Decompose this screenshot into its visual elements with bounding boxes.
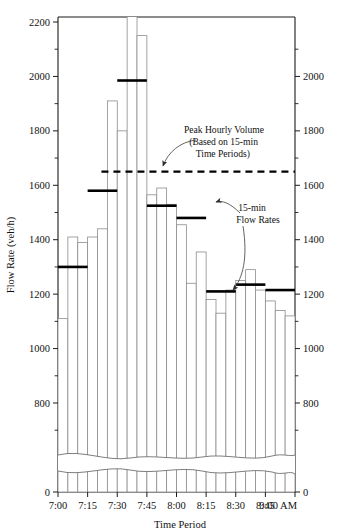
bar — [196, 252, 206, 492]
x-axis-tick-label: 7:15 — [78, 500, 97, 511]
bar — [167, 204, 177, 492]
x-axis-labels: 7:007:157:307:458:008:158:308:459:00 AM — [49, 500, 298, 511]
x-axis-tick-label: 8:30 — [226, 500, 245, 511]
bar — [137, 36, 147, 492]
annotation-15min-arrow-up — [216, 201, 240, 213]
y-axis-tick-label: 2200 — [29, 17, 50, 28]
bar — [147, 195, 157, 492]
bar — [117, 131, 127, 492]
annotation-peak-hourly-volume: Peak Hourly Volume (Based on 15-min Time… — [163, 124, 264, 166]
y-axis-tick-label: 1000 — [303, 343, 324, 354]
bar — [107, 101, 117, 492]
y-axis-title: Flow Rate (veh/h) — [5, 216, 17, 293]
annotation-peak-line-3: Time Periods) — [196, 148, 250, 160]
y-axis-left-labels: 08001000120014001600180020002200 — [29, 17, 50, 498]
x-axis-tick-label: 7:30 — [108, 500, 127, 511]
y-axis-tick-label: 800 — [303, 398, 319, 409]
y-axis-tick-label: 1000 — [29, 343, 50, 354]
x-axis-tick-label: 7:00 — [49, 500, 68, 511]
y-axis-tick-label: 0 — [303, 487, 308, 498]
y-axis-tick-label: 1600 — [303, 180, 324, 191]
y-axis-tick-label: 1600 — [29, 180, 50, 191]
bar — [127, 14, 137, 492]
x-axis-tick-label: 9:00 AM — [259, 500, 297, 511]
bar — [98, 229, 108, 492]
x-axis-title: Time Period — [154, 519, 207, 530]
bar — [157, 188, 167, 492]
x-axis-tick-label: 8:00 — [167, 500, 186, 511]
annotation-15min-line-1: 15-min — [238, 202, 266, 213]
y-axis-left-ticks — [53, 22, 58, 492]
y-axis-tick-label: 2000 — [29, 71, 50, 82]
y-axis-right-ticks — [295, 49, 300, 492]
y-axis-tick-label: 2000 — [303, 71, 324, 82]
x-axis-ticks — [58, 492, 295, 497]
y-axis-tick-label: 0 — [45, 487, 50, 498]
bar-series — [58, 14, 295, 492]
y-axis-tick-label: 800 — [34, 398, 50, 409]
y-axis-tick-label: 1800 — [29, 125, 50, 136]
chart-figure: 08001000120014001600180020002200 0800100… — [0, 0, 359, 532]
bar — [88, 237, 98, 492]
annotation-15min-line-2: Flow Rates — [236, 214, 280, 225]
y-axis-tick-label: 1200 — [29, 289, 50, 300]
bar — [177, 225, 187, 492]
y-axis-right-labels: 0800100012001400160018002000 — [303, 71, 324, 498]
y-axis-tick-label: 1800 — [303, 125, 324, 136]
x-axis-tick-label: 8:15 — [197, 500, 216, 511]
x-axis-tick-label: 7:45 — [138, 500, 157, 511]
annotation-peak-line-1: Peak Hourly Volume — [184, 124, 264, 135]
annotation-peak-line-2: (Based on 15-min — [189, 136, 258, 148]
flow-rate-chart-svg: 08001000120014001600180020002200 0800100… — [0, 0, 359, 532]
y-axis-tick-label: 1400 — [303, 234, 324, 245]
y-axis-tick-label: 1200 — [303, 289, 324, 300]
y-axis-tick-label: 1400 — [29, 234, 50, 245]
